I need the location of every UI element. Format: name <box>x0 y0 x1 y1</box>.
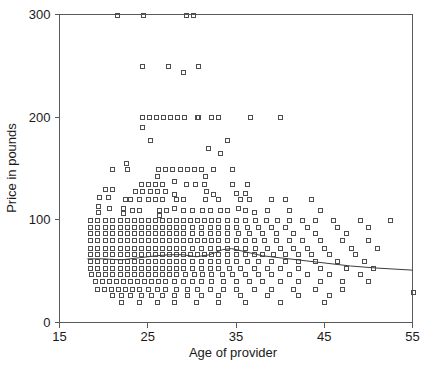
plot-background <box>0 0 434 373</box>
x-tick-label-55: 55 <box>405 329 419 344</box>
y-tick-label-300: 300 <box>29 7 51 22</box>
x-tick-label-35: 35 <box>229 329 243 344</box>
x-tick-label-25: 25 <box>141 329 155 344</box>
y-tick-label-200: 200 <box>29 110 51 125</box>
y-tick-label-0: 0 <box>43 315 50 330</box>
x-tick-label-15: 15 <box>52 329 66 344</box>
x-axis-title: Age of provider <box>189 345 278 360</box>
scatter-plot: 01002003001525354555 Age of provider Pri… <box>0 0 434 373</box>
x-tick-label-45: 45 <box>317 329 331 344</box>
chart-figure: 01002003001525354555 Age of provider Pri… <box>0 0 434 373</box>
y-tick-label-100: 100 <box>29 212 51 227</box>
y-axis-title: Price in pounds <box>4 123 19 213</box>
